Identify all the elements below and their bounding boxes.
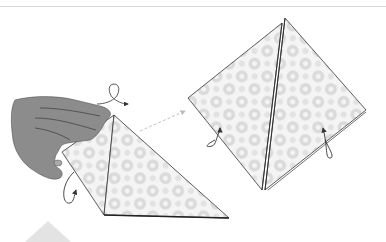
corner-marker <box>25 221 71 242</box>
dashed-transition-arrow-icon <box>140 111 185 131</box>
rotation-arrow-icon <box>64 172 76 203</box>
origami-diagram <box>0 0 386 242</box>
step-right-diamond <box>188 18 366 190</box>
turn-over-loop-icon <box>97 84 128 104</box>
